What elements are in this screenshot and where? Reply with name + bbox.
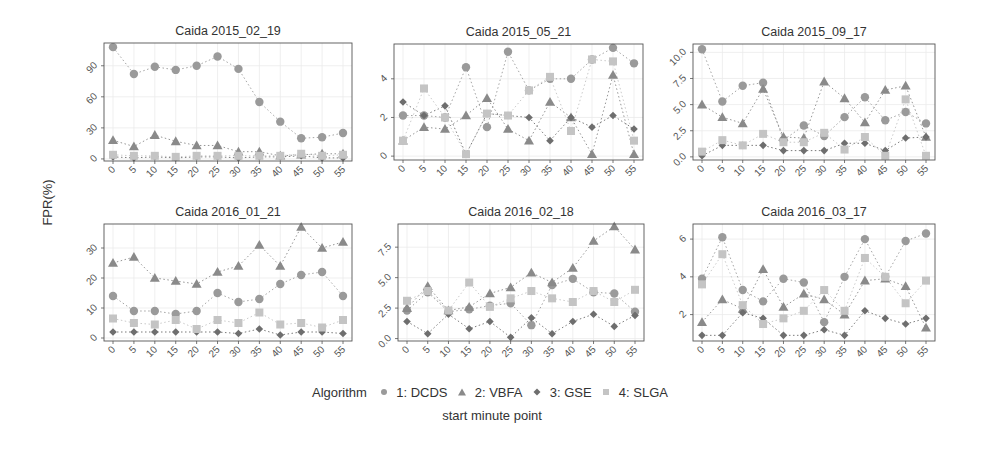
panel-2: Caida 2015_05_21024051015202530354045505… [378, 25, 643, 178]
y-tick-label: 0 [378, 149, 390, 161]
x-axis-title: start minute point [0, 408, 984, 423]
y-tick-label: 2 [378, 111, 390, 123]
plot-canvas: Caida 2015_02_19030609005101520253035404… [0, 0, 984, 449]
x-tick-label: 20 [185, 163, 201, 179]
y-tick-label: 30 [84, 121, 100, 137]
x-tick-label: 5 [127, 163, 139, 175]
panel-3: Caida 2015_09_170.02.55.07.510.005101520… [667, 25, 935, 178]
x-tick-label: 10 [434, 162, 450, 178]
x-tick-label: 15 [164, 343, 180, 359]
legend-title: Algorithm [312, 385, 367, 400]
x-tick-label: 55 [915, 343, 931, 359]
y-tick-label: 10 [84, 301, 100, 317]
x-tick-label: 0 [695, 162, 707, 174]
x-tick-label: 50 [602, 162, 618, 178]
x-tick-label: 55 [623, 162, 639, 178]
panel-5: Caida 2016_02_180.02.55.07.5051015202530… [376, 205, 644, 359]
x-tick-label: 0 [396, 162, 408, 174]
x-tick-label: 5 [715, 343, 727, 355]
panel-title: Caida 2016_01_21 [175, 205, 281, 219]
x-tick-label: 35 [248, 163, 264, 179]
x-tick-label: 35 [248, 343, 264, 359]
y-tick-label: 2.5 [376, 301, 394, 319]
y-tick-label: 30 [84, 241, 100, 257]
x-tick-label: 55 [624, 343, 640, 359]
x-tick-label: 35 [541, 343, 557, 359]
x-tick-label: 0 [106, 343, 118, 355]
x-tick-label: 10 [144, 163, 160, 179]
y-tick-label: 0 [88, 152, 100, 164]
x-tick-label: 20 [772, 162, 788, 178]
x-tick-label: 25 [793, 162, 809, 178]
y-tick-label: 5.0 [671, 98, 689, 116]
panel-6: Caida 2016_03_17246051015202530354045505… [677, 205, 935, 359]
x-tick-label: 20 [476, 162, 492, 178]
y-tick-label: 7.5 [376, 240, 394, 258]
x-tick-label: 55 [915, 162, 931, 178]
x-tick-label: 35 [833, 343, 849, 359]
y-tick-label: 4 [677, 270, 689, 282]
x-tick-label: 55 [332, 163, 348, 179]
y-tick-label: 10.0 [667, 46, 689, 68]
x-tick-label: 0 [695, 343, 707, 355]
x-tick-label: 5 [715, 162, 727, 174]
panel-1: Caida 2015_02_19030609005101520253035404… [84, 24, 352, 179]
x-tick-label: 45 [290, 343, 306, 359]
x-tick-label: 10 [731, 162, 747, 178]
y-tick-label: 0.0 [376, 332, 394, 350]
x-tick-label: 25 [206, 343, 222, 359]
x-tick-label: 5 [127, 343, 139, 355]
panel-title: Caida 2016_03_17 [761, 205, 867, 219]
x-tick-label: 35 [539, 162, 555, 178]
y-tick-label: 7.5 [671, 72, 689, 90]
y-axis-title: FPR(%) [40, 179, 55, 225]
x-tick-label: 25 [793, 343, 809, 359]
x-tick-label: 0 [400, 343, 412, 355]
faceted-line-chart: Caida 2015_02_19030609005101520253035404… [0, 0, 984, 449]
panel-4: Caida 2016_01_21010203005101520253035404… [84, 205, 352, 359]
x-tick-label: 10 [437, 343, 453, 359]
x-tick-label: 30 [520, 343, 536, 359]
x-tick-label: 30 [227, 343, 243, 359]
x-tick-label: 45 [582, 343, 598, 359]
legend: Algorithm 1: DCDS 2: VBFA 3: GSE 4: SLGA [0, 384, 984, 400]
x-tick-label: 55 [332, 343, 348, 359]
y-tick-label: 90 [84, 59, 100, 75]
x-tick-label: 30 [518, 162, 534, 178]
x-tick-label: 50 [311, 343, 327, 359]
panel-title: Caida 2016_02_18 [468, 205, 574, 219]
y-tick-label: 2.5 [671, 124, 689, 142]
x-tick-label: 40 [854, 162, 870, 178]
x-tick-label: 10 [144, 343, 160, 359]
y-tick-label: 5.0 [376, 271, 394, 289]
x-tick-label: 25 [497, 162, 513, 178]
x-tick-label: 15 [752, 343, 768, 359]
legend-item-vbfa: 2: VBFA [475, 385, 523, 400]
x-tick-label: 30 [227, 163, 243, 179]
x-tick-label: 10 [731, 343, 747, 359]
x-tick-label: 25 [499, 343, 515, 359]
x-tick-label: 15 [164, 163, 180, 179]
x-tick-label: 15 [455, 162, 471, 178]
x-tick-label: 50 [603, 343, 619, 359]
x-tick-label: 15 [752, 162, 768, 178]
legend-item-dcds: 1: DCDS [396, 385, 447, 400]
x-tick-label: 5 [420, 343, 432, 355]
x-tick-label: 30 [813, 343, 829, 359]
panel-title: Caida 2015_02_19 [175, 24, 281, 38]
x-tick-label: 20 [185, 343, 201, 359]
x-tick-label: 40 [560, 162, 576, 178]
triangle-marker-icon [457, 385, 467, 400]
panel-title: Caida 2015_09_17 [761, 25, 867, 39]
x-tick-label: 30 [813, 162, 829, 178]
x-tick-label: 5 [417, 162, 429, 174]
x-tick-label: 50 [894, 162, 910, 178]
x-tick-label: 50 [311, 163, 327, 179]
x-tick-label: 0 [106, 163, 118, 175]
legend-item-gse: 3: GSE [550, 385, 592, 400]
square-marker-icon [601, 385, 611, 400]
x-tick-label: 45 [874, 162, 890, 178]
y-tick-label: 0.0 [671, 150, 689, 168]
y-tick-label: 0 [88, 331, 100, 343]
x-tick-label: 15 [458, 343, 474, 359]
